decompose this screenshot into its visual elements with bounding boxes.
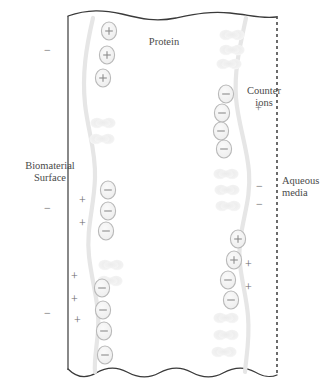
protein-blob	[214, 185, 239, 195]
protein-blob	[213, 313, 238, 323]
ion-negative	[94, 279, 109, 297]
free-charge-positive: +	[255, 102, 262, 114]
free-charge-negative: −	[44, 44, 51, 56]
free-charge-positive: +	[245, 281, 252, 293]
free-charge-negative: −	[256, 198, 263, 210]
protein-blob	[98, 260, 123, 270]
ion-negative	[96, 322, 111, 340]
ion-negative	[100, 181, 115, 199]
free-charge-positive: +	[74, 314, 81, 326]
free-charge-positive: +	[71, 293, 78, 305]
aqueous-media-label-line2: media	[282, 187, 332, 199]
ion-negative	[95, 301, 110, 319]
ion-positive	[101, 22, 116, 40]
protein-blob	[216, 59, 241, 69]
free-charge-positive: +	[79, 217, 86, 229]
biomaterial-label-line2: Surface	[8, 172, 92, 184]
free-charge-negative: −	[256, 180, 263, 192]
ion-negative	[213, 122, 228, 140]
protein-blob	[215, 201, 240, 211]
free-charge-positive: +	[245, 258, 252, 270]
ion-negative	[220, 271, 235, 289]
biomaterial-label-line1: Biomaterial	[8, 160, 92, 172]
free-charge-positive: +	[71, 270, 78, 282]
ion-negative	[100, 202, 115, 220]
protein-blob	[213, 169, 238, 179]
counter-ions-label-line2: ions	[236, 97, 292, 109]
protein-blob	[89, 134, 114, 144]
protein-blob	[213, 330, 238, 340]
ion-negative	[216, 140, 231, 158]
protein-blob	[219, 30, 244, 40]
protein-blob	[219, 45, 244, 55]
protein-label: Protein	[132, 36, 196, 48]
ion-positive	[226, 251, 241, 269]
counter-ions-label-line1: Counter	[236, 85, 292, 97]
biomaterial-surface-label: Biomaterial Surface	[8, 160, 92, 184]
aqueous-media-label: Aqueous media	[282, 175, 332, 199]
ion-negative	[98, 222, 113, 240]
ion-positive	[230, 230, 245, 248]
ion-negative	[218, 85, 233, 103]
protein-blob	[211, 347, 236, 357]
ion-positive	[95, 69, 110, 87]
ion-negative	[223, 291, 238, 309]
protein-blob	[90, 118, 115, 128]
free-charge-negative: −	[44, 307, 51, 319]
diagram-canvas: Biomaterial Surface Protein Counter ions…	[0, 0, 333, 391]
counter-ions-label: Counter ions	[236, 85, 292, 109]
free-charge-negative: −	[44, 202, 51, 214]
free-charge-positive: +	[79, 194, 86, 206]
aqueous-media-label-line1: Aqueous	[282, 175, 332, 187]
ion-negative	[214, 104, 229, 122]
ion-negative	[97, 346, 112, 364]
left-polymer-chain	[84, 18, 98, 372]
ion-positive	[99, 46, 114, 64]
